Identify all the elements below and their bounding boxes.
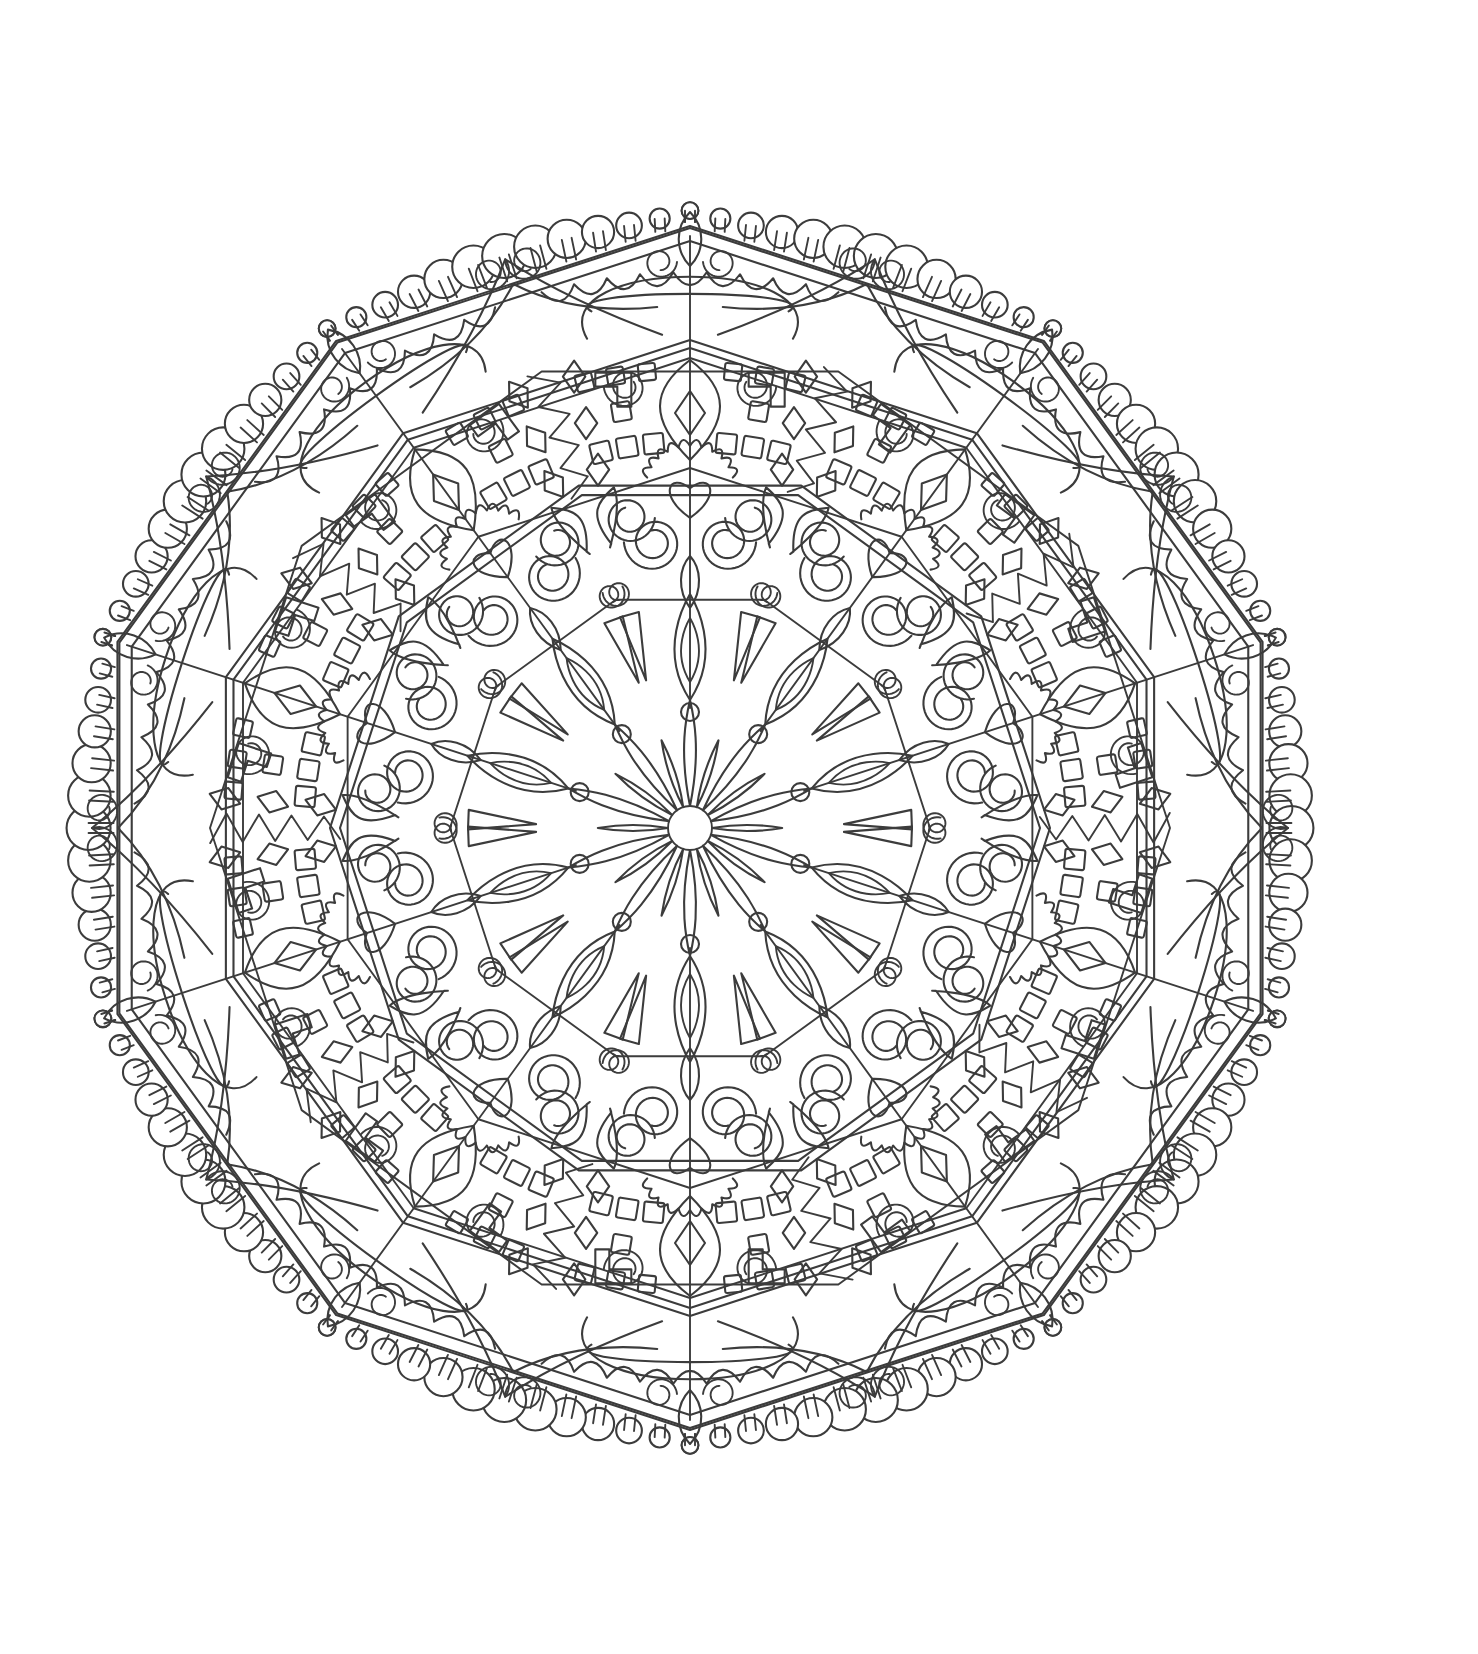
coloring-page-canvas: Mandala Coloring Page	[0, 0, 1478, 1654]
mandala-illustration	[0, 0, 1478, 1654]
paper-background	[0, 0, 1478, 1654]
